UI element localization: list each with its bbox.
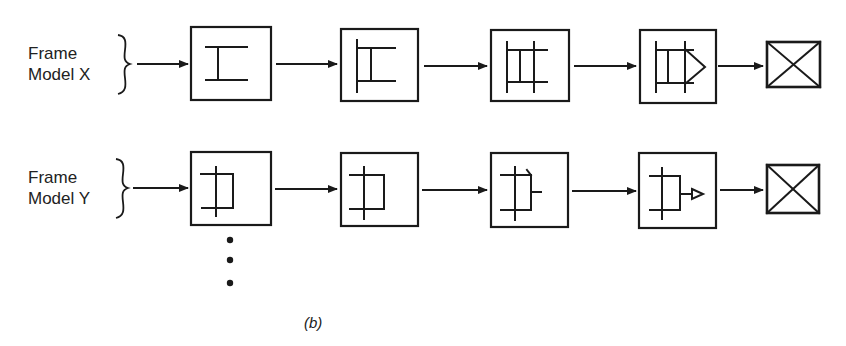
row-y-stage-1: [191, 152, 271, 225]
bracket-icon: [350, 167, 384, 219]
row-y-final-box: [767, 165, 819, 213]
row-x-stage-4: [640, 30, 716, 103]
arrow-frame-icon: [656, 42, 705, 92]
row-x-final-box: [767, 42, 820, 87]
continuation-dots-icon: [227, 237, 233, 286]
grid-frame-icon: [507, 42, 547, 92]
row-x-stage-3: [491, 30, 569, 101]
row-y-stage-2: [341, 153, 418, 226]
partial-frame-icon: [357, 40, 395, 92]
bracket-icon: [201, 167, 233, 216]
bracket-arrow-icon: [650, 168, 703, 219]
frame-model-diagram: [0, 0, 846, 346]
bracket-tab-icon: [501, 167, 541, 220]
x-cross-icon: [767, 42, 820, 87]
row-y-brace-icon: [116, 159, 128, 218]
row-y-stage-3: [491, 153, 568, 227]
row-x-brace-icon: [118, 35, 130, 94]
row-x-stage-2: [341, 29, 418, 101]
row-y-stage-4: [639, 153, 716, 228]
figure-caption: (b): [304, 314, 322, 331]
row-y: [116, 152, 819, 228]
row-x-stage-1: [191, 27, 271, 100]
x-cross-icon: [767, 165, 819, 213]
row-x: [118, 27, 820, 103]
i-beam-icon: [206, 47, 247, 80]
